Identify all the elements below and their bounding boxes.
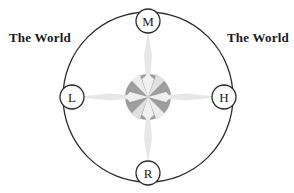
marker-m[interactable]: M <box>136 9 160 33</box>
marker-l[interactable]: L <box>60 85 84 109</box>
marker-r-label: R <box>144 166 153 181</box>
marker-h[interactable]: H <box>212 85 236 109</box>
marker-r[interactable]: R <box>136 161 160 185</box>
marker-m-label: M <box>142 14 154 29</box>
marker-l-label: L <box>68 90 76 105</box>
figure-canvas: The World The World M H <box>0 0 294 193</box>
compass-diagram: M H R L <box>0 0 294 193</box>
marker-h-label: H <box>219 90 228 105</box>
